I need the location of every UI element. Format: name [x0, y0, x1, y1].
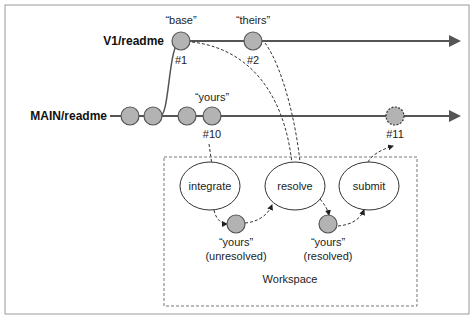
- unresolved-quote: “yours”: [219, 236, 254, 248]
- main-branch-label: MAIN/readme: [30, 109, 107, 123]
- unresolved-node: [227, 215, 245, 233]
- resolved-node: [319, 215, 337, 233]
- resolved-state: (resolved): [304, 250, 353, 262]
- resolve-label: resolve: [277, 180, 312, 192]
- new-number: #11: [386, 128, 404, 140]
- workspace-label: Workspace: [263, 273, 318, 285]
- resolved-quote: “yours”: [311, 236, 346, 248]
- revision-node: [121, 107, 139, 125]
- revision-node-theirs: [244, 32, 262, 50]
- frame-border: [5, 5, 469, 314]
- revision-node: [178, 107, 196, 125]
- theirs-number: #2: [247, 54, 259, 66]
- revision-node-base: [172, 32, 190, 50]
- unresolved-state: (unresolved): [205, 250, 266, 262]
- revision-node-yours: [203, 107, 221, 125]
- base-number: #1: [175, 54, 187, 66]
- revision-node: [144, 107, 162, 125]
- v1-branch-label: V1/readme: [103, 34, 164, 48]
- yours-label: “yours”: [195, 91, 230, 103]
- integrate-label: integrate: [189, 180, 232, 192]
- base-label: “base”: [165, 14, 197, 26]
- merge-diagram: V1/readme MAIN/readme “base” #1 “theirs”…: [0, 0, 474, 319]
- yours-number: #10: [203, 128, 221, 140]
- theirs-label: “theirs”: [236, 14, 271, 26]
- submit-label: submit: [353, 180, 385, 192]
- revision-node-new: [386, 107, 404, 125]
